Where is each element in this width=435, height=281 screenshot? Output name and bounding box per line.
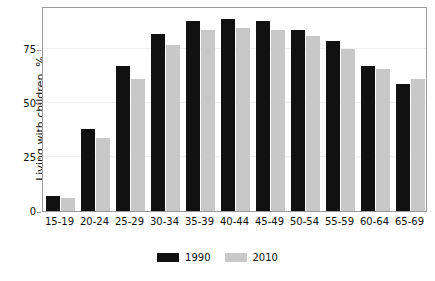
x-tick-label: 40-44 [217,216,252,227]
y-tick-mark [37,158,41,159]
bar-group [183,8,218,211]
legend-entry-2010[interactable]: 2010 [225,252,278,263]
plot-area [42,7,427,212]
bar-2010-20-24 [96,138,111,211]
bar-1990-45-49 [256,21,271,211]
bar-1990-15-19 [46,196,61,211]
bar-1990-25-29 [116,66,131,211]
bar-group [358,8,393,211]
x-tick-label: 15-19 [42,216,77,227]
bar-group [393,8,428,211]
x-tick-label: 35-39 [182,216,217,227]
x-tick-label: 50-54 [287,216,322,227]
y-tick-label: 0 [5,207,36,217]
chart-legend: 19902010 [0,252,435,263]
bar-group [148,8,183,211]
bar-group [218,8,253,211]
x-tick-label: 65-69 [392,216,427,227]
x-tick-label: 20-24 [77,216,112,227]
x-tick-label: 55-59 [322,216,357,227]
bar-group [43,8,78,211]
bar-1990-60-64 [361,66,376,211]
bar-group [253,8,288,211]
bar-group [113,8,148,211]
bar-series-container [43,8,426,211]
bar-2010-25-29 [131,79,146,211]
legend-swatch-icon [225,253,247,262]
y-tick-label: 75 [5,45,36,55]
legend-label: 1990 [185,252,210,263]
bar-1990-40-44 [221,19,236,211]
bar-2010-65-69 [411,79,426,211]
bar-2010-55-59 [341,49,356,211]
bar-1990-65-69 [396,84,411,211]
bar-1990-35-39 [186,21,201,211]
bar-2010-15-19 [61,198,76,211]
bar-1990-50-54 [291,30,306,211]
bar-2010-45-49 [271,30,286,211]
y-tick-mark [37,212,41,213]
bar-2010-60-64 [376,69,391,211]
legend-entry-1990[interactable]: 1990 [157,252,210,263]
legend-swatch-icon [157,253,179,262]
y-tick-mark [37,104,41,105]
bar-1990-30-34 [151,34,166,211]
y-tick-label: 25 [5,153,36,163]
bar-1990-55-59 [326,41,341,211]
bar-chart-figure: Living with children, % 0255075 15-1920-… [0,0,435,281]
y-tick-mark [37,50,41,51]
x-tick-label: 30-34 [147,216,182,227]
bar-group [288,8,323,211]
bar-2010-30-34 [166,45,181,211]
x-axis-tick-labels: 15-1920-2425-2930-3435-3940-4445-4950-54… [42,216,427,232]
bar-group [78,8,113,211]
x-tick-label: 45-49 [252,216,287,227]
bar-group [323,8,358,211]
bar-2010-40-44 [236,28,251,211]
bar-1990-20-24 [81,129,96,211]
bar-2010-35-39 [201,30,216,211]
y-tick-label: 50 [5,99,36,109]
legend-label: 2010 [253,252,278,263]
x-tick-label: 60-64 [357,216,392,227]
bar-2010-50-54 [306,36,321,211]
x-tick-label: 25-29 [112,216,147,227]
